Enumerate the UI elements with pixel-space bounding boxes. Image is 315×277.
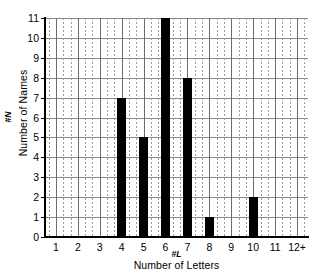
y-tick-mark	[41, 98, 45, 99]
y-tick-mark	[41, 18, 45, 19]
y-tick-label: 7	[33, 92, 39, 104]
histogram-figure: #N Number of Names 01234567891011 123456…	[0, 0, 315, 277]
y-tick-label: 1	[33, 211, 39, 223]
y-tick-label: 5	[33, 131, 39, 143]
y-tick-label: 4	[33, 151, 39, 163]
y-tick-label: 0	[33, 231, 39, 243]
y-tick-mark	[41, 38, 45, 39]
y-axis-spine	[44, 17, 46, 238]
y-tick-label: 6	[33, 112, 39, 124]
y-tick-mark	[41, 157, 45, 158]
y-tick-label: 3	[33, 171, 39, 183]
y-tick-mark	[41, 58, 45, 59]
y-tick-mark	[41, 137, 45, 138]
x-axis-title: Number of Letters	[45, 259, 308, 271]
y-tick-label: 2	[33, 191, 39, 203]
y-tick-mark	[41, 177, 45, 178]
y-tick-label: 10	[27, 32, 39, 44]
axis-group	[45, 18, 308, 237]
x-axis-symbol-label: #L	[45, 249, 308, 259]
x-axis-spine	[44, 236, 309, 238]
y-tick-label: 9	[33, 52, 39, 64]
y-tick-mark	[41, 237, 45, 238]
y-axis-title: Number of Names	[17, 23, 29, 203]
y-tick-mark	[41, 118, 45, 119]
y-axis-symbol-label: #N	[3, 77, 13, 157]
y-tick-label: 8	[33, 72, 39, 84]
plot-area: 01234567891011 123456789101112+	[45, 18, 308, 237]
y-tick-label: 11	[28, 12, 39, 24]
y-tick-mark	[41, 217, 45, 218]
y-tick-mark	[41, 197, 45, 198]
y-tick-mark	[41, 78, 45, 79]
